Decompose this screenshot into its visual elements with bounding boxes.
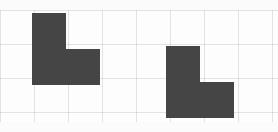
bottom-margin-band (0, 122, 278, 132)
shape-canvas: L-shaped block (upper left) L-shaped blo… (0, 0, 278, 132)
top-margin-band (0, 0, 278, 10)
